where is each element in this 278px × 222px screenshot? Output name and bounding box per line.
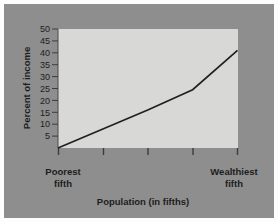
line-chart: 50 45 40 35 30 25 20 15 10 5 Percent of … bbox=[0, 0, 278, 222]
y-tick-label: 5 bbox=[45, 131, 50, 141]
x-axis-title: Population (in fifths) bbox=[97, 196, 189, 207]
y-axis-tick-labels: 50 45 40 35 30 25 20 15 10 5 bbox=[40, 24, 50, 141]
y-tick-label: 20 bbox=[40, 96, 50, 106]
y-tick-label: 10 bbox=[40, 119, 50, 129]
y-axis-title: Percent of income bbox=[21, 47, 32, 129]
y-axis-ticks bbox=[52, 29, 58, 136]
y-tick-label: 50 bbox=[40, 24, 50, 34]
x-label-poorest-line2: fifth bbox=[54, 178, 72, 189]
y-tick-label: 30 bbox=[40, 72, 50, 82]
figure-container: 50 45 40 35 30 25 20 15 10 5 Percent of … bbox=[0, 0, 278, 222]
y-tick-label: 35 bbox=[40, 60, 50, 70]
x-label-wealthiest-line1: Wealthiest bbox=[210, 166, 258, 177]
x-axis-ticks bbox=[59, 148, 238, 155]
y-tick-label: 45 bbox=[40, 36, 50, 46]
x-axis-category-labels: Poorest fifth Wealthiest fifth bbox=[45, 166, 258, 189]
plot-area bbox=[58, 29, 238, 148]
x-label-poorest-line1: Poorest bbox=[45, 166, 81, 177]
y-tick-label: 15 bbox=[40, 108, 50, 118]
y-tick-label: 40 bbox=[40, 48, 50, 58]
y-tick-label: 25 bbox=[40, 84, 50, 94]
x-label-wealthiest-line2: fifth bbox=[225, 178, 243, 189]
